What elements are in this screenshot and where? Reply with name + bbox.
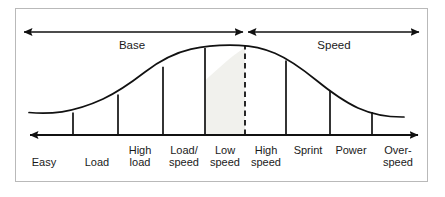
zone-label-high-speed-line1: High xyxy=(255,144,278,156)
shaded-band-low-speed xyxy=(205,48,245,136)
zone-label-high-load-line2: load xyxy=(130,156,151,168)
zone-label-sprint: Sprint xyxy=(294,144,323,156)
zone-label-load: Load xyxy=(85,156,109,168)
zone-label-power: Power xyxy=(335,144,367,156)
phase-label-speed: Speed xyxy=(317,39,350,51)
zone-label-easy: Easy xyxy=(32,156,57,168)
zone-label-load-speed-line1: Load/ xyxy=(170,144,198,156)
zone-label-over-speed-line2: speed xyxy=(383,156,413,168)
zone-label-high-load-line1: High xyxy=(129,144,152,156)
zone-label-low-speed-line1: Low xyxy=(215,144,235,156)
bell-curve-diagram: Base Speed Easy Load High load Load/ spe… xyxy=(0,0,445,197)
zone-label-low-speed-line2: speed xyxy=(210,156,240,168)
figure-root: Base Speed Easy Load High load Load/ spe… xyxy=(0,0,445,197)
zone-label-over-speed-line1: Over- xyxy=(384,144,412,156)
phase-label-base: Base xyxy=(119,39,145,51)
zone-label-load-speed-line2: speed xyxy=(169,156,199,168)
zone-label-high-speed-line2: speed xyxy=(251,156,281,168)
